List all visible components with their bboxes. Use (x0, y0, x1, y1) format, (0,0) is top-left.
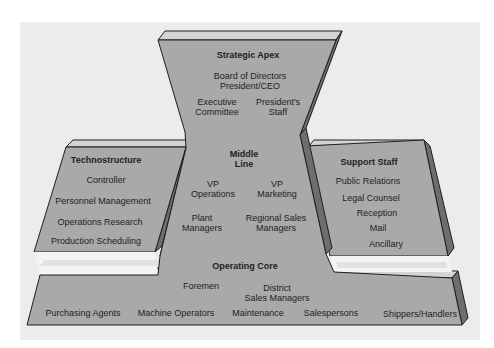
apex-presidents-staff: President's Staff (256, 97, 300, 117)
middle-vp-operations: VP Operations (191, 179, 235, 199)
apex-executive-committee: Executive Committee (195, 97, 239, 117)
core-purchasing-agents: Purchasing Agents (45, 308, 120, 318)
strategic-apex-title: Strategic Apex (217, 50, 280, 60)
apex-executive-committee-line1: Executive (195, 97, 239, 107)
support-staff-title: Support Staff (341, 157, 398, 167)
apex-board-of-directors: Board of Directors (214, 71, 287, 81)
apex-executive-committee-line2: Committee (195, 107, 239, 117)
middle-plant-managers-line1: Plant (182, 213, 222, 223)
support-item-mail: Mail (370, 223, 387, 233)
middle-regional-sales-managers-line2: Managers (246, 223, 307, 233)
techno-item-personnel-management: Personnel Management (55, 196, 151, 206)
middle-line-title-line1: Middle (230, 149, 259, 159)
middle-plant-managers-line2: Managers (182, 223, 222, 233)
techno-item-operations-research: Operations Research (57, 217, 142, 227)
middle-vp-operations-line2: Operations (191, 189, 235, 199)
core-salespersons: Salespersons (304, 308, 359, 318)
middle-vp-marketing: VP Marketing (257, 179, 297, 199)
operating-core-title: Operating Core (212, 261, 278, 271)
core-foremen: Foremen (183, 281, 219, 291)
core-district-sales-managers-line2: Sales Managers (244, 293, 309, 303)
middle-vp-marketing-line1: VP (257, 179, 297, 189)
core-district-sales-managers: District Sales Managers (244, 283, 309, 303)
core-district-sales-managers-line1: District (244, 283, 309, 293)
apex-presidents-staff-line2: Staff (256, 107, 300, 117)
middle-line-title-line2: Line (230, 159, 259, 169)
middle-regional-sales-managers: Regional Sales Managers (246, 213, 307, 233)
core-maintenance: Maintenance (232, 308, 284, 318)
support-item-legal-counsel: Legal Counsel (342, 193, 400, 203)
apex-president-ceo: President/CEO (220, 81, 280, 91)
middle-vp-marketing-line2: Marketing (257, 189, 297, 199)
middle-regional-sales-managers-line1: Regional Sales (246, 213, 307, 223)
techno-item-controller: Controller (86, 175, 125, 185)
support-item-reception: Reception (357, 208, 398, 218)
middle-line-title: Middle Line (230, 149, 259, 169)
apex-presidents-staff-line1: President's (256, 97, 300, 107)
middle-plant-managers: Plant Managers (182, 213, 222, 233)
core-shippers-handlers: Shippers/Handlers (383, 309, 457, 319)
technostructure-title: Technostructure (71, 155, 141, 165)
support-item-ancillary: Ancillary (369, 239, 403, 249)
core-machine-operators: Machine Operators (138, 308, 215, 318)
org-structure-diagram: Strategic Apex Board of Directors Presid… (0, 0, 494, 348)
middle-vp-operations-line1: VP (191, 179, 235, 189)
support-item-public-relations: Public Relations (336, 176, 401, 186)
techno-item-production-scheduling: Production Scheduling (51, 236, 141, 246)
